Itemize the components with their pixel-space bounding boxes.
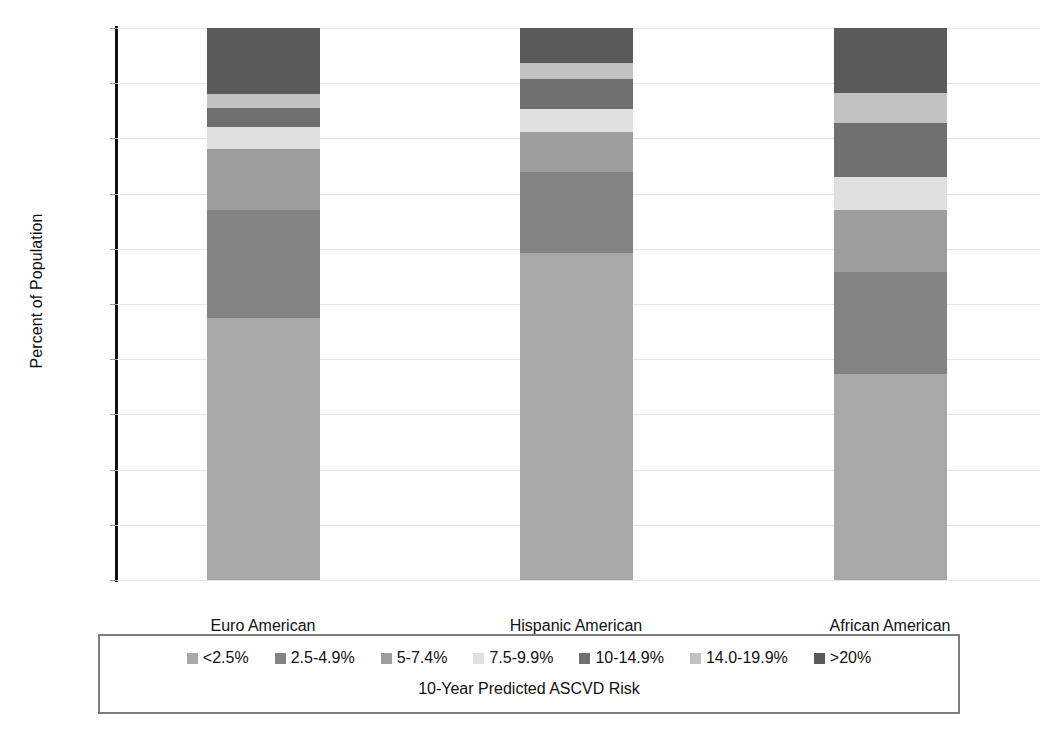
bar-segment — [834, 374, 947, 580]
category-label: Euro American — [113, 617, 413, 635]
legend-swatch-icon — [579, 653, 590, 664]
legend-swatch-icon — [187, 653, 198, 664]
legend-label: 10-14.9% — [595, 649, 664, 667]
bar-segment — [207, 28, 320, 94]
legend-label: <2.5% — [203, 649, 249, 667]
legend: <2.5%2.5-4.9%5-7.4%7.5-9.9%10-14.9%14.0-… — [98, 634, 960, 714]
bar-african-american — [834, 28, 947, 580]
bar-segment — [520, 28, 633, 63]
legend-item[interactable]: 7.5-9.9% — [473, 649, 553, 667]
legend-swatch-icon — [381, 653, 392, 664]
bar-segment — [520, 63, 633, 79]
legend-swatch-icon — [473, 653, 484, 664]
y-tick-mark — [110, 414, 117, 415]
legend-item[interactable]: 10-14.9% — [579, 649, 664, 667]
bar-segment — [834, 123, 947, 177]
legend-swatch-icon — [814, 653, 825, 664]
legend-label: 5-7.4% — [397, 649, 448, 667]
y-tick-mark — [110, 194, 117, 195]
legend-label: 7.5-9.9% — [489, 649, 553, 667]
gridline — [117, 580, 1040, 581]
bar-segment — [520, 79, 633, 109]
y-tick-mark — [110, 580, 117, 581]
bar-segment — [834, 93, 947, 123]
y-axis-title: Percent of Population — [28, 176, 46, 406]
legend-item[interactable]: 2.5-4.9% — [275, 649, 355, 667]
bar-segment — [834, 272, 947, 374]
legend-label: 2.5-4.9% — [291, 649, 355, 667]
category-label: Hispanic American — [426, 617, 726, 635]
y-tick-mark — [110, 83, 117, 84]
legend-item[interactable]: 14.0-19.9% — [690, 649, 788, 667]
bar-segment — [207, 210, 320, 318]
legend-caption: 10-Year Predicted ASCVD Risk — [100, 680, 958, 698]
ascvd-risk-stacked-bar-chart: Percent of Population 010203040506070809… — [0, 0, 1054, 747]
bar-segment — [207, 108, 320, 128]
legend-label: >20% — [830, 649, 871, 667]
bar-segment — [834, 210, 947, 272]
bar-segment — [207, 94, 320, 107]
bar-hispanic-american — [520, 28, 633, 580]
bar-segment — [520, 132, 633, 172]
legend-item[interactable]: 5-7.4% — [381, 649, 448, 667]
legend-item[interactable]: <2.5% — [187, 649, 249, 667]
y-tick-mark — [110, 249, 117, 250]
category-label: African American — [740, 617, 1040, 635]
y-tick-mark — [110, 304, 117, 305]
bar-segment — [207, 318, 320, 580]
legend-swatch-icon — [690, 653, 701, 664]
bar-euro-american — [207, 28, 320, 580]
bar-segment — [834, 177, 947, 210]
y-tick-mark — [110, 138, 117, 139]
legend-items: <2.5%2.5-4.9%5-7.4%7.5-9.9%10-14.9%14.0-… — [100, 643, 958, 673]
bar-segment — [520, 253, 633, 580]
y-tick-mark — [110, 28, 117, 29]
y-tick-mark — [110, 470, 117, 471]
plot-area: 0102030405060708090100Euro AmericanHispa… — [117, 28, 1040, 580]
y-tick-mark — [110, 359, 117, 360]
bar-segment — [207, 149, 320, 209]
legend-label: 14.0-19.9% — [706, 649, 788, 667]
bar-segment — [207, 127, 320, 149]
bar-segment — [834, 28, 947, 93]
legend-item[interactable]: >20% — [814, 649, 871, 667]
bar-segment — [520, 109, 633, 133]
bar-segment — [520, 172, 633, 253]
legend-swatch-icon — [275, 653, 286, 664]
y-tick-mark — [110, 525, 117, 526]
